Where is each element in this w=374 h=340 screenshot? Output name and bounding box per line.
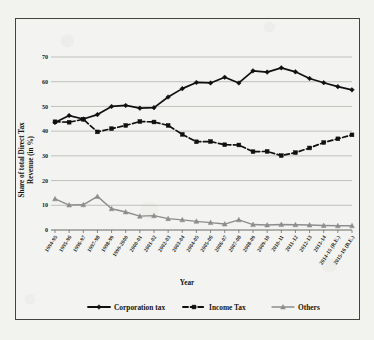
data-point	[209, 140, 213, 144]
data-point	[336, 137, 340, 141]
data-point	[81, 117, 85, 121]
data-point	[237, 143, 241, 147]
legend-marker	[97, 305, 102, 310]
series-others	[53, 194, 355, 228]
y-tick-label: 20	[42, 178, 48, 184]
data-series-group	[53, 66, 355, 228]
data-point	[251, 150, 255, 154]
series-line	[55, 196, 352, 225]
x-tick-label: 2010-11	[270, 234, 285, 253]
x-tick-label: 2002-03	[156, 234, 171, 253]
data-point	[208, 81, 213, 86]
y-tick-label-group: 010203040506070	[42, 54, 48, 233]
data-point	[265, 150, 269, 154]
x-tick-label: 2007-08	[227, 234, 242, 253]
x-tick-label: 2004-05	[185, 234, 200, 253]
series-income-tax	[53, 117, 354, 157]
x-tick-label: 1995-96	[57, 234, 72, 253]
x-tick-label: 2000-01	[128, 234, 143, 253]
legend-label: Corporation tax	[114, 303, 165, 312]
data-point	[152, 120, 156, 124]
x-tick-label: 2009-10	[255, 234, 270, 253]
data-point	[322, 141, 326, 145]
y-tick-label: 10	[42, 202, 48, 208]
x-tick-label: 2008-09	[241, 234, 256, 253]
data-point	[294, 151, 298, 155]
data-point	[110, 127, 114, 131]
data-point	[124, 124, 128, 128]
data-point	[279, 154, 283, 158]
data-point	[350, 88, 355, 93]
x-axis-title: Year	[180, 279, 195, 287]
data-point	[336, 84, 341, 89]
data-point	[222, 75, 227, 80]
data-point	[279, 66, 284, 71]
y-tick-label: 30	[42, 153, 48, 159]
y-axis-title-line1: Share of total Direct Tax	[18, 122, 26, 198]
data-point	[138, 120, 142, 124]
data-point	[67, 120, 71, 124]
x-tick-mark-group	[55, 230, 352, 233]
data-point	[180, 132, 184, 136]
x-tick-label: 1994-95	[43, 234, 58, 253]
y-tick-label: 70	[42, 54, 48, 60]
series-line	[55, 119, 352, 155]
data-point	[53, 196, 58, 201]
x-tick-label: 2001-02	[142, 234, 157, 253]
data-point	[265, 70, 270, 75]
data-point	[166, 124, 170, 128]
x-tick-label: 2006-07	[213, 234, 228, 253]
data-point	[321, 80, 326, 85]
x-tick-label: 1997-98	[86, 234, 101, 253]
data-point	[195, 140, 199, 144]
x-tick-label: 2012-13	[298, 234, 313, 253]
x-tick-label: 2005-06	[199, 234, 214, 253]
legend-marker	[192, 305, 196, 309]
data-point	[308, 146, 312, 150]
data-point	[350, 133, 354, 137]
x-tick-label: 2003-04	[171, 234, 186, 253]
x-tick-label: 1996-97	[72, 234, 87, 253]
data-point	[123, 103, 128, 108]
legend-label: Others	[298, 303, 320, 312]
data-point	[53, 120, 57, 124]
y-axis-title-line2: Revenue (in %)	[27, 135, 35, 184]
data-point	[223, 143, 227, 147]
y-tick-label: 50	[42, 104, 48, 110]
chart-figure: 010203040506070 1994-951995-961996-97199…	[0, 0, 374, 340]
chart-page: 010203040506070 1994-951995-961996-97199…	[0, 0, 374, 340]
series-corporation-tax	[53, 66, 355, 125]
x-tick-label-group: 1994-951995-961996-971997-981998-991999-…	[43, 234, 356, 266]
y-tick-label: 60	[42, 79, 48, 85]
data-point	[236, 217, 241, 222]
chart-legend: Corporation taxIncome TaxOthers	[88, 303, 320, 312]
data-point	[96, 130, 100, 134]
legend-label: Income Tax	[209, 303, 246, 312]
y-tick-label: 40	[42, 128, 48, 134]
y-tick-label: 0	[45, 227, 48, 233]
line-chart: 010203040506070 1994-951995-961996-97199…	[0, 0, 374, 340]
data-point	[95, 194, 100, 199]
